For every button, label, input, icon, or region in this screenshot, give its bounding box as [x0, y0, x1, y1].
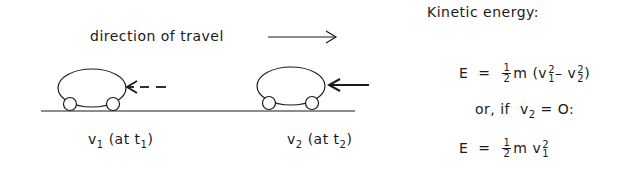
direction-arrow-icon: [268, 31, 336, 43]
direction-label: direction of travel: [90, 28, 224, 44]
equation-2: E = 12m v21: [459, 138, 549, 159]
car-2-icon: [257, 67, 325, 110]
dashed-force-arrow-icon: [127, 81, 166, 93]
car-1-label: v1 (at t1): [88, 131, 153, 150]
condition-line: or, if v2 = O:: [475, 101, 574, 120]
kinetic-energy-title: Kinetic energy:: [427, 4, 539, 20]
equation-1: E = 12m (v21– v22): [459, 63, 590, 84]
solid-force-arrow-icon: [329, 79, 369, 91]
car-2-label: v2 (at t2): [287, 131, 352, 150]
car-1-icon: [58, 69, 126, 111]
